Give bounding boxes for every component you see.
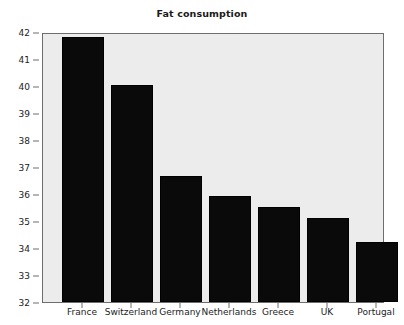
x-tick-label-netherlands: Netherlands [202,307,257,317]
x-tick-label-greece: Greece [262,307,294,317]
x-tick-label-switzerland: Switzerland [105,307,158,317]
x-axis: FranceSwitzerlandGermanyNetherlandsGreec… [0,0,404,325]
x-tick-label-uk: UK [321,307,334,317]
x-tick-label-france: France [67,307,97,317]
x-tick-label-portugal: Portugal [357,307,394,317]
x-tick-label-germany: Germany [159,307,200,317]
chart-figure: Fat consumption 3233343536373839404142 F… [0,0,404,325]
